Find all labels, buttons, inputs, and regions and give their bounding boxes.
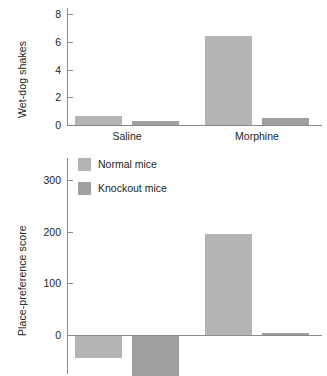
y-tick-top-0 (68, 125, 73, 126)
bar-top-saline-normal (75, 116, 122, 125)
x-axis-line-top (67, 125, 322, 126)
bar-bottom-saline-normal (75, 336, 122, 358)
bar-bottom-morphine-normal (205, 234, 252, 335)
bar-bottom-morphine-knockout (262, 333, 309, 335)
x-label-top-morphine: Morphine (212, 131, 302, 142)
y-tick-top-2 (68, 97, 73, 98)
bar-top-saline-knockout (132, 121, 179, 125)
y-tick-top-6 (68, 42, 73, 43)
y-tick-label-top-2: 2 (31, 92, 61, 103)
legend-item-knockout[interactable]: Knockout mice (78, 182, 167, 195)
chart-place-preference-score: Place-preference score 0100200300 Normal… (0, 150, 327, 374)
y-axis-line-bottom (67, 158, 68, 374)
y-tick-top-4 (68, 70, 73, 71)
y-tick-bottom-200 (68, 232, 73, 233)
y-tick-label-top-4: 4 (31, 65, 61, 76)
y-tick-bottom-300 (68, 180, 73, 181)
y-tick-label-bottom-100: 100 (27, 278, 61, 289)
bar-bottom-saline-knockout (132, 336, 179, 376)
y-tick-label-bottom-0: 0 (27, 330, 61, 341)
bar-top-morphine-normal (205, 36, 252, 125)
bar-top-morphine-knockout (262, 118, 309, 125)
y-tick-label-top-8: 8 (31, 9, 61, 20)
legend-label-normal: Normal mice (98, 159, 157, 170)
legend-item-normal[interactable]: Normal mice (78, 158, 157, 171)
legend-swatch-normal-icon (78, 158, 91, 171)
y-tick-label-bottom-200: 200 (27, 227, 61, 238)
y-axis-title-top: Wet-dog shakes (16, 41, 28, 118)
y-tick-top-8 (68, 14, 73, 15)
chart-wet-dog-shakes: Wet-dog shakes 02468 SalineMorphine (0, 0, 327, 150)
y-tick-label-top-6: 6 (31, 37, 61, 48)
legend-swatch-knockout-icon (78, 182, 91, 195)
y-tick-label-bottom-300: 300 (27, 175, 61, 186)
x-label-top-saline: Saline (82, 131, 172, 142)
y-tick-label-top-0: 0 (31, 120, 61, 131)
y-tick-bottom-0 (68, 335, 73, 336)
y-axis-line-top (67, 8, 68, 125)
y-tick-bottom-100 (68, 283, 73, 284)
legend-label-knockout: Knockout mice (98, 183, 167, 194)
